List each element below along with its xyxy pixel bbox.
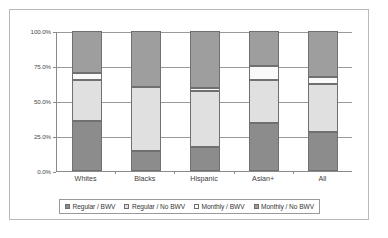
legend-item-label: Regular / BWV bbox=[73, 203, 116, 210]
y-tick-mark bbox=[53, 172, 56, 173]
bar-group bbox=[249, 32, 279, 171]
bar-group bbox=[308, 32, 338, 171]
legend-item-label: Monthly / BWV bbox=[202, 203, 245, 210]
stacked-bar[interactable] bbox=[190, 32, 220, 171]
bar-segment[interactable] bbox=[308, 77, 338, 84]
legend-item[interactable]: Monthly / No BWV bbox=[254, 203, 315, 210]
x-axis-tick-label: Hispanic bbox=[174, 174, 233, 183]
legend-item[interactable]: Regular / No BWV bbox=[124, 203, 185, 210]
bar-segment[interactable] bbox=[249, 80, 279, 123]
legend-swatch-icon bbox=[65, 204, 70, 209]
bar-segment[interactable] bbox=[131, 31, 161, 87]
bar-segment[interactable] bbox=[308, 132, 338, 171]
x-axis-tick-label: Blacks bbox=[115, 174, 174, 183]
x-axis-tick-label: All bbox=[293, 174, 352, 183]
x-axis-tick-label: Whites bbox=[56, 174, 115, 183]
y-axis-tick-label: 75.0% bbox=[11, 63, 51, 70]
bar-segment[interactable] bbox=[249, 123, 279, 171]
legend-item[interactable]: Monthly / BWV bbox=[194, 203, 244, 210]
bar-segment[interactable] bbox=[190, 91, 220, 147]
bar-segment[interactable] bbox=[72, 80, 102, 121]
bar-segment[interactable] bbox=[131, 87, 161, 151]
x-axis: WhitesBlacksHispanicAsian+All bbox=[56, 174, 352, 188]
bar-segment[interactable] bbox=[249, 31, 279, 66]
bar-segment[interactable] bbox=[72, 121, 102, 171]
legend-swatch-icon bbox=[254, 204, 259, 209]
bar-segment[interactable] bbox=[72, 73, 102, 80]
bar-segment[interactable] bbox=[72, 31, 102, 73]
stacked-bar[interactable] bbox=[249, 32, 279, 171]
y-axis-tick-label: 0.0% bbox=[11, 168, 51, 175]
stacked-bar[interactable] bbox=[131, 32, 161, 171]
legend-item[interactable]: Regular / BWV bbox=[65, 203, 115, 210]
legend-swatch-icon bbox=[194, 204, 199, 209]
figure-container: 0.0%25.0%50.0%75.0%100.0% WhitesBlacksHi… bbox=[0, 0, 388, 238]
stacked-bar[interactable] bbox=[308, 32, 338, 171]
y-axis-tick-label: 50.0% bbox=[11, 98, 51, 105]
legend-swatch-icon bbox=[124, 204, 129, 209]
legend-item-label: Regular / No BWV bbox=[132, 203, 185, 210]
bar-segment[interactable] bbox=[308, 31, 338, 77]
bar-segment[interactable] bbox=[190, 88, 220, 91]
chart-legend: Regular / BWVRegular / No BWVMonthly / B… bbox=[59, 199, 320, 214]
y-axis-tick-label: 25.0% bbox=[11, 133, 51, 140]
x-axis-tick-label: Asian+ bbox=[234, 174, 293, 183]
bar-segment[interactable] bbox=[308, 84, 338, 132]
y-axis: 0.0%25.0%50.0%75.0%100.0% bbox=[10, 32, 56, 172]
bar-segment[interactable] bbox=[249, 66, 279, 80]
plot-area bbox=[56, 32, 352, 172]
bar-group bbox=[72, 32, 102, 171]
bar-group bbox=[190, 32, 220, 171]
legend-item-label: Monthly / No BWV bbox=[261, 203, 314, 210]
stacked-bar[interactable] bbox=[72, 32, 102, 171]
y-axis-tick-label: 100.0% bbox=[11, 28, 51, 35]
chart-frame: 0.0%25.0%50.0%75.0%100.0% WhitesBlacksHi… bbox=[9, 9, 369, 220]
bar-segment[interactable] bbox=[190, 31, 220, 88]
bar-segment[interactable] bbox=[190, 147, 220, 171]
bar-group bbox=[131, 32, 161, 171]
bar-segment[interactable] bbox=[131, 151, 161, 171]
